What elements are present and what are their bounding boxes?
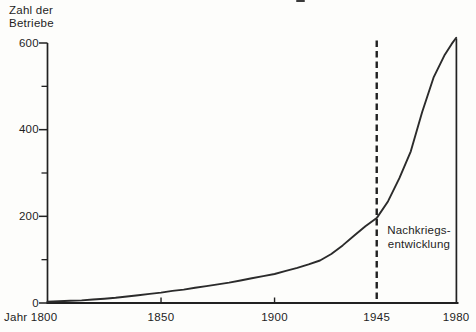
scan-crop-artifact [296,0,305,2]
x-axis-tick-label: 1945 [355,311,399,323]
x-axis-tick-label: 1900 [253,311,297,323]
y-axis-title-line1: Zahl der [9,4,53,16]
annotation-nachkriegsentwicklung: Nachkriegs-entwicklung [380,224,458,251]
x-axis-tick-label: 1850 [139,311,183,323]
annotation-line2: entwicklung [388,238,450,250]
y-axis-tick-label: 600 [6,37,39,49]
data-curve-zahl-der-betriebe [48,38,457,302]
y-axis-tick-label: 200 [6,210,39,222]
x-axis-tick-label: 1980 [434,311,476,323]
plot-area [0,0,476,332]
y-axis-title-line2: Betriebe [9,17,54,29]
line-chart-figure: Zahl derBetriebe Jahr 1800 0200400600185… [0,0,476,332]
y-axis-title: Zahl derBetriebe [9,4,54,30]
y-axis-tick-label: 0 [6,297,39,309]
y-axis-tick-label: 400 [6,123,39,135]
x-axis-first-tick-label: Jahr 1800 [4,311,57,323]
annotation-line1: Nachkriegs- [387,224,451,236]
